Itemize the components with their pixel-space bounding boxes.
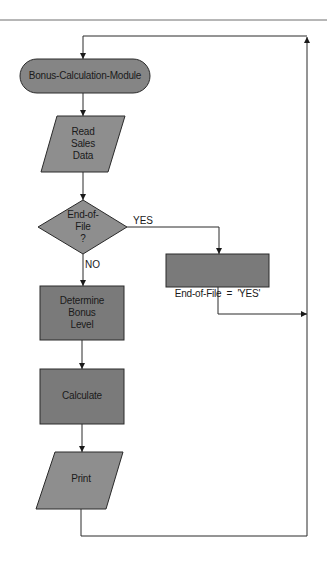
process-calculate bbox=[40, 369, 124, 424]
io-print bbox=[36, 452, 123, 509]
decision-end-of-file bbox=[38, 200, 127, 254]
edge-print-loop bbox=[81, 509, 307, 536]
loop-return-line bbox=[83, 36, 307, 59]
process-set-eof bbox=[166, 254, 269, 287]
flowchart-canvas bbox=[0, 0, 327, 565]
yes-label: YES bbox=[133, 215, 153, 227]
io-read-sales-data bbox=[41, 116, 125, 172]
terminal-start bbox=[20, 59, 150, 93]
edge-set-eof-loop bbox=[218, 287, 307, 314]
no-label: NO bbox=[85, 259, 100, 271]
process-determine-bonus-level bbox=[40, 286, 124, 340]
edge-yes bbox=[127, 227, 219, 254]
